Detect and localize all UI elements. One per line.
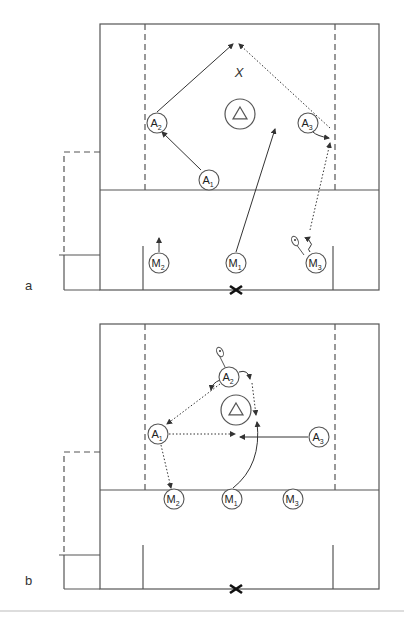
player-subscript: 2 [158, 124, 162, 131]
player-a1: A1 [148, 424, 168, 444]
player-subscript: 2 [176, 500, 180, 507]
panel-b: bA2A1A3M2M1M3 [25, 324, 379, 593]
position-marker-x: X [234, 65, 245, 80]
run-path [239, 371, 250, 379]
goal-crease-circle [225, 99, 255, 129]
player-m1: M1 [222, 489, 242, 509]
pass-path [161, 445, 171, 488]
field-boundary [100, 324, 379, 589]
run-path [211, 380, 220, 390]
player-a2: A2 [219, 367, 239, 387]
panel-a: aXA2A1A3M2M1M3 [25, 24, 379, 294]
substitution-area-dashed [64, 452, 100, 555]
player-m3: M3 [283, 489, 303, 509]
player-m2: M2 [149, 253, 169, 273]
field-boundary [100, 24, 379, 290]
panel-label: a [25, 278, 33, 293]
player-subscript: 1 [159, 435, 163, 442]
run-path [162, 132, 201, 170]
run-path [157, 44, 233, 112]
player-a2: A2 [147, 113, 167, 133]
ball-icon [219, 350, 221, 352]
player-a1: A1 [199, 170, 219, 190]
player-subscript: 3 [295, 500, 299, 507]
substitution-area-dashed [64, 152, 100, 255]
player-subscript: 2 [230, 378, 234, 385]
player-subscript: 3 [320, 438, 324, 445]
run-path [233, 422, 258, 488]
player-m3: M3 [306, 253, 326, 273]
player-subscript: 1 [238, 264, 242, 271]
ball-icon [294, 239, 296, 241]
pass-path [252, 383, 256, 415]
pass-path [310, 143, 330, 230]
player-m1: M1 [226, 253, 246, 273]
player-a3: A3 [298, 113, 318, 133]
player-subscript: 3 [309, 124, 313, 131]
player-subscript: 3 [318, 264, 322, 271]
diagram-canvas: aXA2A1A3M2M1M3bA2A1A3M2M1M3 [0, 0, 404, 617]
player-subscript: 2 [161, 264, 165, 271]
goal-crease-circle [221, 395, 251, 425]
player-a3: A3 [309, 427, 329, 447]
panel-label: b [25, 573, 32, 588]
player-subscript: 1 [210, 181, 214, 188]
player-subscript: 1 [234, 500, 238, 507]
dodge-path [309, 237, 312, 252]
panels-root: aXA2A1A3M2M1M3bA2A1A3M2M1M3 [25, 24, 379, 593]
pass-path [167, 384, 220, 424]
player-m2: M2 [164, 489, 184, 509]
